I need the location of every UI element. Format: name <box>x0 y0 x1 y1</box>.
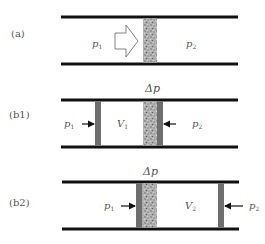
pressure-label-p1: p1 <box>64 118 74 130</box>
panel-b1: (b1) Δp p1 V1 p2 <box>9 82 238 147</box>
left-piston <box>95 102 101 146</box>
panel-label-b2: (b2) <box>9 197 30 208</box>
porous-plug <box>143 19 157 63</box>
volume-label-v2: V2 <box>185 200 196 212</box>
throttling-process-diagram: (a) p1 p2 (b1) Δp p1 V1 p2 (b2) Δp p1 V2… <box>0 0 265 244</box>
panel-b2: (b2) Δp p1 V2 p2 <box>9 165 259 229</box>
porous-plug <box>142 184 157 228</box>
pressure-label-p2: p2 <box>249 200 259 212</box>
pressure-label-p2: p2 <box>192 118 202 130</box>
left-piston <box>136 184 142 228</box>
flow-arrow-icon <box>115 25 138 57</box>
panel-label-a: (a) <box>11 28 25 39</box>
delta-p-label: Δp <box>144 82 160 95</box>
panel-label-b1: (b1) <box>9 109 30 120</box>
pressure-label-p2: p2 <box>186 38 196 50</box>
right-piston <box>218 184 224 228</box>
delta-p-label: Δp <box>142 165 158 178</box>
right-piston <box>157 102 163 146</box>
panel-a: (a) p1 p2 <box>11 17 238 64</box>
pressure-label-p1: p1 <box>92 38 102 50</box>
volume-label-v1: V1 <box>117 118 128 130</box>
pressure-label-p1: p1 <box>104 200 114 212</box>
porous-plug <box>143 102 157 146</box>
